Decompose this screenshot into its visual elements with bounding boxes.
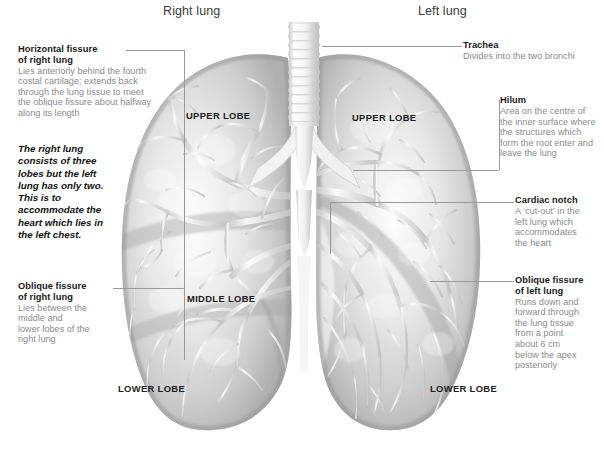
callout-title: Cardiac notch (515, 195, 604, 206)
callout-cardiac-notch: Cardiac notch A ‘cut-out’ in the left lu… (515, 195, 604, 248)
callout-title: Hilum (500, 95, 604, 106)
leader-cardiac-notch-h (330, 202, 514, 203)
callout-body: A ‘cut-out’ in the left lung which accom… (515, 206, 604, 248)
callout-title: Trachea (463, 40, 598, 51)
callout-trachea: Trachea Divides into the two bronchi (463, 40, 598, 62)
label-right-upper-lobe: UPPER LOBE (186, 110, 250, 121)
leader-trachea (322, 46, 462, 47)
leader-oblique-left-h (430, 281, 514, 282)
tracheal-rings (289, 23, 320, 121)
label-right-lower-lobe: LOWER LOBE (118, 383, 185, 394)
callout-body: Area on the centre of the inner surface … (500, 106, 604, 159)
header-right-lung: Right lung (163, 4, 220, 18)
leader-cardiac-notch-v (330, 202, 331, 254)
callout-oblique-fissure-left: Oblique fissure of left lung Runs down a… (515, 275, 604, 371)
leader-oblique-right-v (184, 288, 185, 360)
callout-title: Oblique fissure of left lung (515, 275, 604, 296)
leader-hilum-h (353, 170, 499, 171)
callout-body: Lies anteriorly behind the fourth costal… (18, 66, 183, 119)
emphasis-paragraph: The right lung consists of three lobes b… (18, 143, 136, 241)
label-left-lower-lobe: LOWER LOBE (430, 383, 497, 394)
callout-body: Divides into the two bronchi (463, 51, 598, 62)
callout-hilum: Hilum Area on the centre of the inner su… (500, 95, 604, 159)
left-lung-body (310, 54, 480, 430)
label-right-middle-lobe: MIDDLE LOBE (187, 293, 255, 304)
label-left-upper-lobe: UPPER LOBE (352, 112, 416, 123)
callout-body: Lies between the middle and lower lobes … (18, 303, 143, 345)
leader-horizontal-fissure-v (184, 50, 185, 292)
callout-body: Runs down and forward through the lung t… (515, 297, 604, 371)
callout-title: Oblique fissure of right lung (18, 281, 143, 302)
callout-oblique-fissure-right: Oblique fissure of right lung Lies betwe… (18, 281, 143, 345)
diagram-stage: Right lung Left lung UPPER LOBE UPPER LO… (0, 0, 604, 455)
callout-title: Horizontal fissure of right lung (18, 44, 183, 65)
header-left-lung: Left lung (418, 4, 467, 18)
callout-horizontal-fissure: Horizontal fissure of right lung Lies an… (18, 44, 183, 119)
